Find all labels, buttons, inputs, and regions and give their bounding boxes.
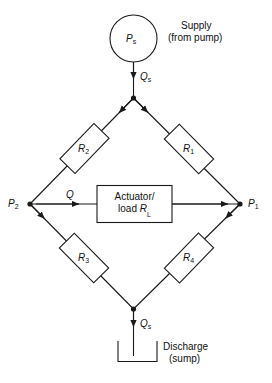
- load-flow-label: Q: [66, 189, 74, 201]
- resistor-r4-subscript: 4: [190, 257, 194, 264]
- supply-pressure-subscript: s: [133, 38, 137, 45]
- resistor-r1-label: R1: [183, 143, 194, 156]
- discharge-flow-label: Qs: [140, 318, 151, 331]
- supply-flow-label: Qs: [140, 71, 151, 84]
- hydraulic-bridge-diagram: Ps Supply (from pump) Qs R2 R1 R3 R4 P2 …: [0, 0, 272, 383]
- branch-left-to-bottom-arrow: [30, 204, 45, 219]
- resistor-r2-label: R2: [78, 143, 89, 156]
- discharge-annotation-line2: (sump): [169, 353, 208, 365]
- branch-right-to-bottom-arrow: [226, 204, 241, 218]
- actuator-load-line1: Actuator/: [97, 191, 172, 203]
- load-flow-symbol: Q: [66, 189, 74, 200]
- branch-top-to-left-arrow: [119, 98, 134, 113]
- discharge-flow-symbol: Q: [140, 318, 148, 329]
- resistor-r4-label: R4: [183, 252, 194, 265]
- resistor-r2-subscript: 2: [85, 148, 89, 155]
- resistor-r3-subscript: 3: [85, 257, 89, 264]
- actuator-load-text: Actuator/ load RL: [97, 191, 172, 219]
- supply-flow-symbol: Q: [140, 71, 148, 82]
- actuator-load-prefix: load: [118, 203, 140, 214]
- node-p2-subscript: 2: [15, 203, 19, 210]
- resistor-r1-subscript: 1: [190, 148, 194, 155]
- node-p1-symbol: P: [248, 198, 255, 209]
- actuator-load-subscript: L: [147, 211, 151, 218]
- actuator-load-line2: load RL: [97, 203, 172, 219]
- supply-flow-subscript: s: [148, 76, 152, 83]
- supply-annotation: Supply (from pump): [181, 20, 222, 44]
- resistor-r3-label: R3: [78, 252, 89, 265]
- actuator-load-symbol: R: [140, 203, 147, 214]
- left-node-p2-dot: [27, 201, 32, 206]
- discharge-flow-subscript: s: [148, 323, 152, 330]
- right-node-p1-dot: [237, 201, 242, 206]
- sump-container: [118, 341, 157, 362]
- node-p1-label: P1: [248, 198, 259, 211]
- node-p2-label: P2: [8, 198, 19, 211]
- supply-pressure-symbol: P: [126, 33, 133, 44]
- branch-top-to-right-arrow: [134, 98, 149, 113]
- node-p1-subscript: 1: [255, 203, 259, 210]
- supply-pressure-label: Ps: [126, 33, 136, 46]
- discharge-annotation-line1: Discharge: [163, 341, 208, 353]
- supply-annotation-line2: (from pump): [168, 32, 222, 44]
- node-p2-symbol: P: [8, 198, 15, 209]
- supply-annotation-line1: Supply: [181, 20, 222, 32]
- discharge-annotation: Discharge (sump): [163, 341, 208, 365]
